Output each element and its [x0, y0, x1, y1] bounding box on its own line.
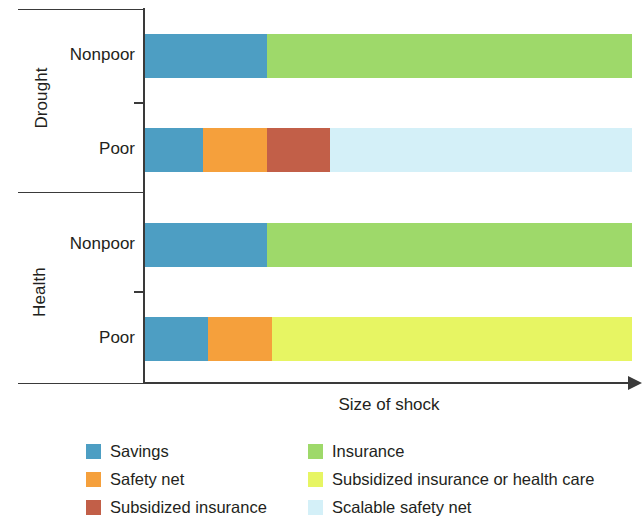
bar-segment	[145, 34, 267, 78]
legend-label: Subsidized insurance	[110, 499, 267, 516]
row-label-text: Nonpoor	[70, 234, 135, 254]
legend-column-right: Insurance Subsidized insurance or health…	[308, 437, 594, 521]
row-label-text: Nonpoor	[70, 45, 135, 65]
group-divider-middle	[18, 192, 144, 193]
bar-segment	[267, 128, 330, 172]
legend-swatch-savings	[86, 444, 101, 459]
legend-swatch-safety-net	[86, 472, 101, 487]
bar-segment	[330, 128, 632, 172]
group-divider-top	[18, 9, 144, 10]
legend-label: Scalable safety net	[332, 499, 471, 516]
legend-label: Safety net	[110, 471, 184, 488]
group-divider-bottom	[18, 383, 144, 384]
legend-item: Savings	[86, 437, 267, 465]
legend-item: Safety net	[86, 465, 267, 493]
legend-swatch-subsidized-insurance	[86, 500, 101, 515]
legend-label: Savings	[110, 443, 169, 460]
legend-swatch-scalable-safety-net	[308, 500, 323, 515]
group-label-health: Health	[0, 282, 90, 302]
bar-segment	[267, 34, 632, 78]
group-label-drought-text: Drought	[32, 48, 52, 148]
legend-swatch-insurance	[308, 444, 323, 459]
plot-area: Drought Health Nonpoor Poor Nonpoor Poor…	[0, 0, 643, 400]
bar-segment	[145, 223, 267, 267]
group-label-drought: Drought	[0, 88, 92, 108]
bar-segment	[145, 317, 208, 361]
legend-item: Subsidized insurance or health care	[308, 465, 594, 493]
x-axis-label: Size of shock	[143, 395, 635, 415]
x-axis-line	[143, 382, 635, 384]
legend-label: Insurance	[332, 443, 404, 460]
bar-health-poor	[145, 317, 632, 361]
bar-segment	[272, 317, 632, 361]
x-axis-arrow-icon	[628, 376, 642, 390]
legend-item: Insurance	[308, 437, 594, 465]
stacked-bar-chart: Drought Health Nonpoor Poor Nonpoor Poor…	[0, 0, 643, 527]
legend-item: Subsidized insurance	[86, 493, 267, 521]
group-label-health-text: Health	[30, 242, 50, 342]
legend-column-left: Savings Safety net Subsidized insurance	[86, 437, 267, 521]
row-label-text: Poor	[99, 328, 135, 348]
legend-swatch-subsidized-insurance-or-health-care	[308, 472, 323, 487]
bar-segment	[203, 128, 266, 172]
bar-drought-nonpoor	[145, 34, 632, 78]
legend-label: Subsidized insurance or health care	[332, 471, 594, 488]
legend-item: Scalable safety net	[308, 493, 594, 521]
bar-segment	[145, 128, 203, 172]
chart-legend: Savings Safety net Subsidized insurance …	[0, 437, 643, 527]
bar-segment	[267, 223, 632, 267]
y-axis-tick-health	[134, 291, 143, 293]
bar-segment	[208, 317, 271, 361]
bar-drought-poor	[145, 128, 632, 172]
bar-health-nonpoor	[145, 223, 632, 267]
y-axis-tick-drought	[134, 102, 143, 104]
row-label-text: Poor	[99, 139, 135, 159]
